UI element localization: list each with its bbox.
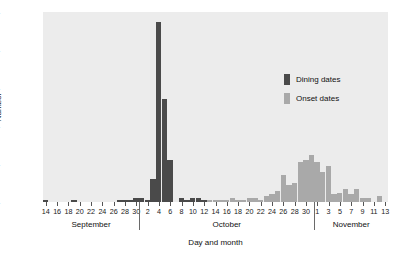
x-tick-label: 4: [157, 207, 161, 216]
x-tick-label: 6: [168, 207, 172, 216]
x-tick-label: 22: [257, 207, 265, 216]
legend-swatch-dining-icon: [284, 74, 290, 85]
y-axis-label: Number: [0, 93, 3, 121]
x-tick-mark: [295, 202, 296, 206]
x-tick-label: 3: [327, 207, 331, 216]
x-tick-label: 13: [381, 207, 389, 216]
legend-item-onset: Onset dates: [284, 93, 340, 104]
x-tick-label: 20: [245, 207, 253, 216]
x-tick-label: 18: [234, 207, 242, 216]
bar: [167, 160, 172, 202]
legend-swatch-onset-icon: [284, 93, 290, 104]
legend: Dining dates Onset dates: [284, 74, 340, 112]
legend-label-dining: Dining dates: [296, 75, 340, 84]
x-tick-mark: [340, 202, 341, 206]
x-tick-mark: [114, 202, 115, 206]
legend-item-dining: Dining dates: [284, 74, 340, 85]
x-tick-mark: [148, 202, 149, 206]
x-tick-label: 10: [189, 207, 197, 216]
x-tick-label: 16: [223, 207, 231, 216]
x-tick-mark: [329, 202, 330, 206]
legend-label-onset: Onset dates: [296, 94, 339, 103]
x-tick-mark: [238, 202, 239, 206]
month-label-november: November: [333, 220, 370, 229]
month-label-september: September: [71, 220, 110, 229]
x-tick-label: 16: [53, 207, 61, 216]
x-tick-mark: [216, 202, 217, 206]
x-tick-mark: [272, 202, 273, 206]
month-label-october: October: [213, 220, 241, 229]
x-tick-label: 2: [146, 207, 150, 216]
x-tick-label: 30: [302, 207, 310, 216]
x-tick-mark: [249, 202, 250, 206]
x-tick-mark: [91, 202, 92, 206]
x-tick-label: 24: [98, 207, 106, 216]
x-tick-label: 12: [200, 207, 208, 216]
x-tick-label: 8: [180, 207, 184, 216]
x-tick-mark: [80, 202, 81, 206]
x-tick-mark: [193, 202, 194, 206]
x-tick-mark: [363, 202, 364, 206]
x-tick-mark: [125, 202, 126, 206]
x-tick-mark: [351, 202, 352, 206]
bar: [162, 99, 167, 202]
x-tick-mark: [227, 202, 228, 206]
x-tick-label: 14: [42, 207, 50, 216]
x-tick-mark: [57, 202, 58, 206]
x-tick-label: 9: [361, 207, 365, 216]
bar: [150, 179, 155, 202]
chart-figure: Number 0–20–40–60–80–100– Dining dates O…: [0, 0, 402, 264]
x-tick-mark: [102, 202, 103, 206]
x-tick-mark: [136, 202, 137, 206]
x-tick-mark: [306, 202, 307, 206]
x-tick-mark: [374, 202, 375, 206]
plot-area: Dining dates Onset dates: [43, 12, 388, 202]
x-axis: 1416182022242628302468101214161820222426…: [43, 202, 388, 264]
y-axis: Number 0–20–40–60–80–100–: [0, 0, 43, 214]
x-tick-mark: [182, 202, 183, 206]
bar: [156, 22, 161, 203]
x-tick-mark: [170, 202, 171, 206]
x-tick-mark: [385, 202, 386, 206]
x-tick-mark: [317, 202, 318, 206]
x-tick-label: 28: [121, 207, 129, 216]
x-tick-label: 7: [349, 207, 353, 216]
x-tick-mark: [46, 202, 47, 206]
x-tick-label: 24: [268, 207, 276, 216]
x-tick-label: 1: [315, 207, 319, 216]
x-tick-mark: [159, 202, 160, 206]
month-separator: [139, 202, 140, 230]
x-tick-label: 26: [110, 207, 118, 216]
x-tick-label: 18: [64, 207, 72, 216]
x-tick-mark: [261, 202, 262, 206]
x-tick-label: 26: [279, 207, 287, 216]
x-tick-label: 5: [338, 207, 342, 216]
x-tick-mark: [283, 202, 284, 206]
x-tick-label: 28: [291, 207, 299, 216]
x-tick-label: 20: [76, 207, 84, 216]
x-axis-label: Day and month: [43, 238, 388, 247]
x-tick-label: 14: [212, 207, 220, 216]
month-separator: [314, 202, 315, 230]
x-tick-label: 22: [87, 207, 95, 216]
x-tick-mark: [68, 202, 69, 206]
x-tick-mark: [204, 202, 205, 206]
x-tick-label: 11: [370, 207, 377, 216]
